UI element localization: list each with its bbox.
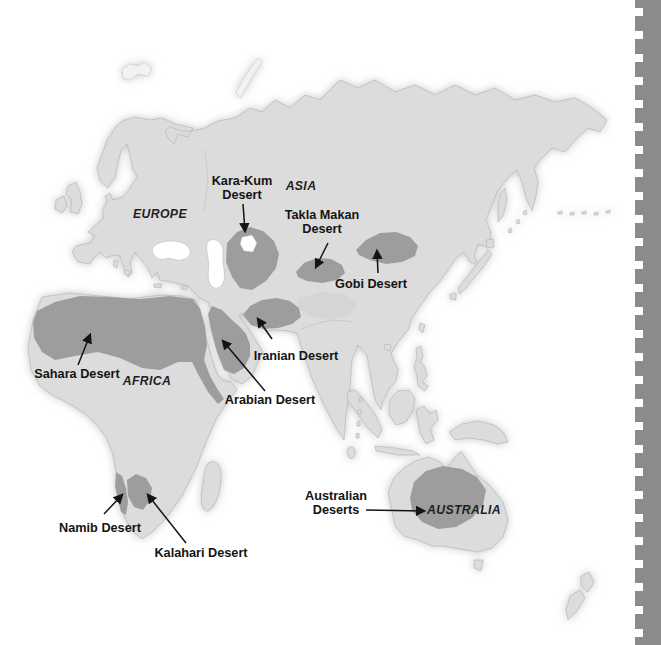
island-svalbard	[122, 62, 152, 80]
black-sea	[152, 241, 190, 260]
arrow-australian-deserts	[366, 510, 424, 511]
caspian-sea	[207, 240, 225, 289]
island-sri-lanka	[347, 447, 355, 459]
island-sardinia	[113, 260, 118, 268]
label-takla-makan-desert: Takla Makan Desert	[285, 208, 360, 237]
label-arabian-desert: Arabian Desert	[225, 393, 315, 407]
label-kara-kum-desert: Kara-Kum Desert	[212, 174, 273, 203]
desert-map-page: EUROPE ASIA AFRICA AUSTRALIA Kara-Kum De…	[0, 0, 661, 645]
island-new-zealand-south	[566, 590, 585, 620]
island-tasmania	[474, 560, 483, 571]
island-hokkaido	[486, 239, 494, 248]
page-binding-strip	[635, 0, 661, 645]
island-madagascar	[201, 462, 221, 511]
world-map	[0, 0, 661, 645]
island-novaya-zemlya	[236, 58, 262, 98]
island-borneo	[389, 390, 415, 425]
island-new-zealand-north	[581, 572, 594, 592]
label-kalahari-desert: Kalahari Desert	[154, 546, 247, 560]
label-europe: EUROPE	[133, 207, 187, 221]
island-kuril-chain	[508, 210, 527, 233]
island-java	[375, 446, 420, 455]
island-ireland	[55, 196, 67, 213]
island-aleutian-chain	[558, 210, 610, 215]
island-cyprus	[181, 286, 188, 290]
island-sulawesi	[416, 406, 438, 444]
binding-perforations	[635, 0, 643, 645]
island-britain	[66, 182, 82, 214]
island-kyushu	[450, 293, 456, 300]
label-africa: AFRICA	[123, 374, 171, 388]
landmasses-group	[28, 58, 610, 620]
island-japan	[458, 250, 492, 294]
label-australia: AUSTRALIA	[427, 503, 501, 517]
island-crete	[154, 284, 162, 288]
label-namib-desert: Namib Desert	[59, 521, 141, 535]
island-taiwan	[419, 323, 425, 333]
label-australian-deserts: Australian Deserts	[305, 489, 367, 518]
label-gobi-desert: Gobi Desert	[335, 277, 407, 291]
island-philippines	[414, 346, 428, 391]
label-sahara-desert: Sahara Desert	[34, 367, 119, 381]
label-asia: ASIA	[286, 179, 317, 193]
label-iranian-desert: Iranian Desert	[254, 349, 339, 363]
arrow-gobi-desert	[377, 251, 378, 273]
island-new-guinea	[449, 421, 508, 444]
island-sakhalin	[498, 188, 507, 222]
